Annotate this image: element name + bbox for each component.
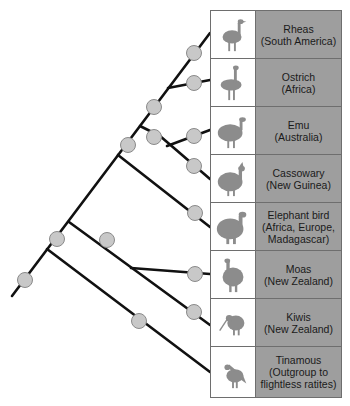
taxon-name: Ostrich (282, 71, 315, 83)
taxon-label: Elephant bird (Africa, Europe, Madagasca… (256, 203, 341, 250)
cassowary-silhouette-icon (214, 159, 252, 199)
taxon-region: (South America) (261, 35, 336, 47)
node (187, 76, 202, 91)
taxon-name: Cassowary (273, 167, 325, 179)
taxon-row-emu: Emu (Australia) (211, 107, 341, 155)
icon-cell (211, 155, 256, 202)
taxon-row-moas: Moas (New Zealand) (211, 251, 341, 299)
node (100, 233, 115, 248)
branch-tinamous (47, 249, 210, 372)
taxon-label: Ostrich (Africa) (256, 59, 341, 106)
taxa-table: Rheas (South America) Ostrich (Africa) (210, 10, 342, 398)
taxon-row-rheas: Rheas (South America) (211, 11, 341, 59)
tree-branches (12, 33, 210, 372)
node (18, 273, 33, 288)
taxon-region: (Outgroup to (269, 366, 328, 378)
node (187, 305, 202, 320)
node (188, 206, 203, 221)
taxon-region: (Australia) (275, 131, 323, 143)
taxon-label: Tinamous (Outgroup to flightless ratites… (256, 347, 341, 397)
tinamou-silhouette-icon (214, 352, 252, 392)
node (147, 130, 162, 145)
node (132, 314, 147, 329)
taxon-name: Elephant bird (268, 209, 330, 221)
taxon-label: Moas (New Zealand) (256, 251, 341, 298)
taxon-row-elephant-bird: Elephant bird (Africa, Europe, Madagasca… (211, 203, 341, 251)
taxon-region-line2: Madagascar) (268, 233, 329, 245)
node (50, 232, 65, 247)
node (147, 100, 162, 115)
taxon-name: Tinamous (276, 354, 322, 366)
taxon-name: Rheas (283, 23, 313, 35)
elephant-bird-silhouette-icon (214, 207, 252, 247)
moa-silhouette-icon (214, 255, 252, 295)
branch-trunk (12, 33, 210, 296)
taxon-row-ostrich: Ostrich (Africa) (211, 59, 341, 107)
ostrich-silhouette-icon (214, 63, 252, 103)
node (187, 46, 202, 61)
node (121, 138, 136, 153)
taxon-region-line2: flightless ratites) (261, 378, 337, 390)
taxon-label: Emu (Australia) (256, 107, 341, 154)
emu-silhouette-icon (214, 111, 252, 151)
taxon-row-kiwis: Kiwis (New Zealand) (211, 299, 341, 347)
taxon-region: (New Zealand) (264, 275, 333, 287)
taxon-region: (Africa) (282, 83, 316, 95)
taxon-row-cassowary: Cassowary (New Guinea) (211, 155, 341, 203)
taxon-label: Rheas (South America) (256, 11, 341, 58)
branch-cassowary (160, 136, 210, 179)
icon-cell (211, 203, 256, 250)
taxon-region: (New Zealand) (264, 323, 333, 335)
taxon-region: (New Guinea) (266, 179, 331, 191)
icon-cell (211, 11, 256, 58)
taxon-name: Moas (286, 263, 312, 275)
icon-cell (211, 299, 256, 346)
taxon-row-tinamous: Tinamous (Outgroup to flightless ratites… (211, 347, 341, 397)
icon-cell (211, 251, 256, 298)
node (187, 159, 202, 174)
kiwi-silhouette-icon (214, 303, 252, 343)
icon-cell (211, 59, 256, 106)
rhea-silhouette-icon (214, 15, 252, 55)
icon-cell (211, 107, 256, 154)
taxon-label: Kiwis (New Zealand) (256, 299, 341, 346)
taxon-label: Cassowary (New Guinea) (256, 155, 341, 202)
taxon-region: (Africa, Europe, (262, 221, 335, 233)
icon-cell (211, 347, 256, 397)
node (188, 267, 203, 282)
taxon-name: Emu (288, 119, 310, 131)
taxon-name: Kiwis (286, 311, 311, 323)
node (187, 129, 202, 144)
